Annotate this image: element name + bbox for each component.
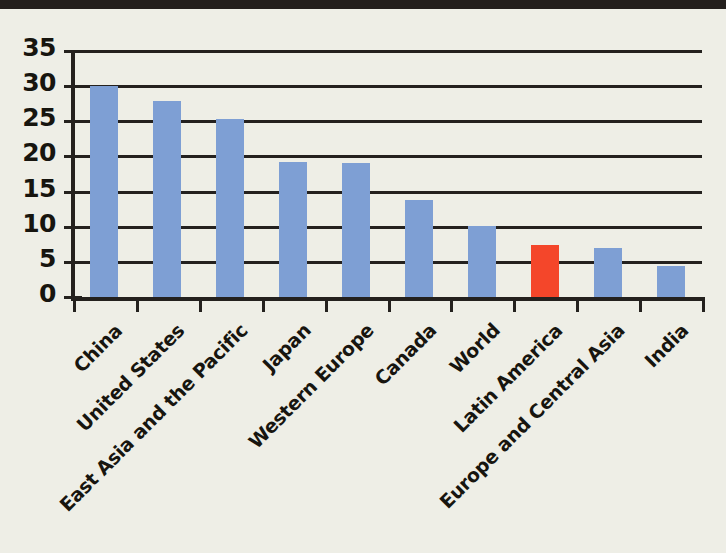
x-category-label: United States [72, 319, 188, 435]
x-tick-mark [702, 297, 705, 312]
bar[interactable] [153, 101, 181, 297]
x-category-label: India [640, 319, 692, 371]
x-tick-mark [576, 297, 579, 312]
x-tick-mark [639, 297, 642, 312]
x-category-label: Canada [370, 319, 441, 390]
bar[interactable] [216, 119, 244, 297]
x-category-label: Japan [258, 319, 315, 376]
y-tick-label: 5 [4, 244, 56, 273]
y-tick-label: 30 [4, 68, 56, 97]
x-category-label: Western Europe [244, 319, 378, 453]
bar[interactable] [405, 200, 433, 297]
x-tick-mark [199, 297, 202, 312]
bar-chart-figure: 05101520253035 ChinaUnited StatesEast As… [0, 9, 726, 553]
x-tick-mark [450, 297, 453, 312]
x-tick-mark [388, 297, 391, 312]
y-tick-label: 25 [4, 103, 56, 132]
y-tick-label: 20 [4, 138, 56, 167]
bar[interactable] [342, 163, 370, 297]
bar[interactable] [90, 86, 118, 297]
x-category-label: World [445, 319, 504, 378]
x-tick-mark [136, 297, 139, 312]
bar[interactable] [531, 245, 559, 297]
y-tick-label: 35 [4, 33, 56, 62]
x-tick-mark [513, 297, 516, 312]
bar[interactable] [657, 266, 685, 297]
plot-area [73, 51, 702, 297]
y-tick-label: 0 [4, 279, 56, 308]
x-category-label: Latin America [449, 319, 566, 436]
y-tick-label: 15 [4, 174, 56, 203]
bar[interactable] [594, 248, 622, 297]
x-tick-mark [262, 297, 265, 312]
bar[interactable] [468, 226, 496, 297]
x-tick-mark [73, 297, 76, 312]
bar[interactable] [279, 162, 307, 297]
y-tick-label: 10 [4, 209, 56, 238]
x-tick-mark [325, 297, 328, 312]
scan-artifact-band [0, 0, 726, 9]
x-category-label: China [69, 319, 126, 376]
